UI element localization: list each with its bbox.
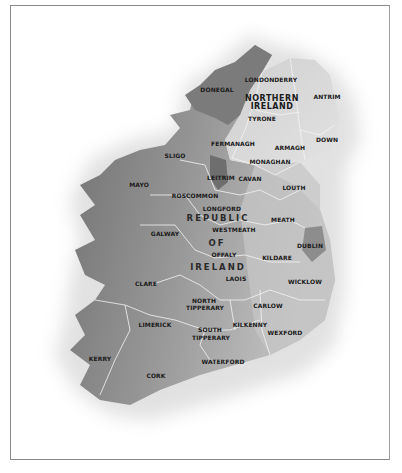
region-label-republic: REPUBLIC (187, 214, 250, 223)
county-label-carlow: CARLOW (253, 302, 283, 309)
county-label-cavan: CAVAN (238, 175, 261, 182)
county-label-north-tipperary-line2: TIPPERARY (186, 304, 224, 311)
county-label-cork: CORK (146, 372, 165, 379)
county-label-donegal: DONEGAL (200, 86, 233, 93)
county-label-kildare: KILDARE (262, 254, 292, 261)
county-label-leitrim: LEITRIM (207, 174, 235, 181)
county-label-south-tipperary-line2: TIPPERARY (192, 334, 230, 341)
county-label-fermanagh: FERMANAGH (211, 140, 255, 147)
county-label-clare: CLARE (135, 280, 157, 287)
county-label-limerick: LIMERICK (139, 321, 172, 328)
county-label-south-tipperary-line1: SOUTH (198, 326, 222, 333)
county-label-laois: LAOIS (226, 275, 247, 282)
county-label-meath: MEATH (271, 216, 295, 223)
county-label-dublin: DUBLIN (297, 242, 323, 249)
county-label-armagh: ARMAGH (275, 144, 305, 151)
county-label-louth: LOUTH (282, 184, 305, 191)
region-label-northern-ireland-line2: IRELAND (251, 103, 294, 111)
county-label-monaghan: MONAGHAN (249, 158, 290, 165)
county-label-kilkenny: KILKENNY (233, 321, 268, 328)
county-label-sligo: SLIGO (165, 152, 186, 159)
county-label-north-tipperary-line1: NORTH (192, 297, 216, 304)
ireland-map (0, 0, 402, 473)
county-label-londonderry: LONDONDERRY (245, 76, 297, 83)
region-label-of: OF (208, 239, 225, 248)
county-label-antrim: ANTRIM (313, 93, 340, 100)
county-label-waterford: WATERFORD (201, 358, 244, 365)
county-label-kerry: KERRY (89, 355, 112, 362)
county-label-tyrone: TYRONE (248, 115, 276, 122)
county-label-offaly: OFFALY (211, 251, 236, 258)
county-label-wicklow: WICKLOW (288, 278, 322, 285)
county-label-wexford: WEXFORD (268, 329, 303, 336)
county-label-westmeath: WESTMEATH (212, 226, 255, 233)
county-label-mayo: MAYO (129, 181, 149, 188)
county-label-galway: GALWAY (151, 230, 179, 237)
region-label-ireland: IRELAND (190, 263, 246, 272)
county-label-down: DOWN (316, 136, 338, 143)
county-label-longford: LONGFORD (203, 205, 241, 212)
county-label-roscommon: ROSCOMMON (172, 192, 219, 199)
